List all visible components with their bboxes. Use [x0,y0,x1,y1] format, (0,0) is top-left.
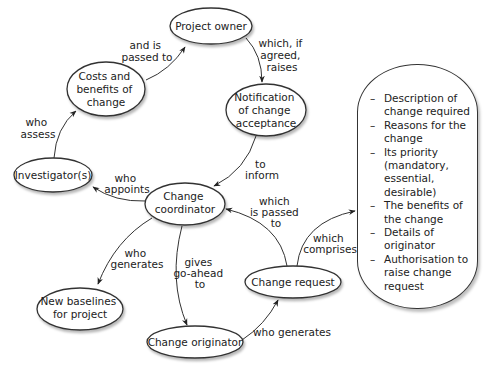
edge-label-originator-to-request: who generates [253,326,331,338]
list-item: Reasons for the change [370,119,471,146]
edge-label-coordinator-to-originator: gives go-ahead to [173,256,226,290]
edge-label-request-to-coordinator: which is passed to [250,195,302,229]
label-change-coordinator: Change coordinator [155,190,216,215]
label-change-originator: Change originator [148,336,243,348]
change-control-concept-map: Project owner Costs and benefits of chan… [0,0,494,373]
edge-label-owner-to-notification: which, if agreed, raises [258,37,305,73]
edge-label-request-to-list: which comprises [303,232,357,255]
label-project-owner: Project owner [175,20,247,32]
edge-investigator-to-costs [54,111,76,158]
change-request-contents-list: Description of change required Reasons f… [370,92,471,293]
label-investigators: Investigator(s) [15,169,92,181]
label-change-request: Change request [251,276,334,288]
edge-label-coordinator-to-investigator: who appoints [104,172,149,195]
edge-label-investigator-to-costs: who assess [21,116,56,140]
change-request-contents-box: Description of change required Reasons f… [357,64,478,309]
edge-label-coordinator-to-baselines: who generates [110,247,163,270]
list-item: The benefits of the change [370,199,471,226]
edge-label-costs-to-owner: and is passed to [121,39,172,63]
list-item: Description of change required [370,92,471,119]
list-item: Its priority (mandatory, essential, desi… [370,146,471,200]
list-item: Details of originator [370,226,471,253]
label-notification: Notification of change acceptance [234,91,298,129]
edge-label-notification-to-coordinator: to inform [245,158,279,181]
list-item: Authorisation to raise change request [370,253,471,293]
